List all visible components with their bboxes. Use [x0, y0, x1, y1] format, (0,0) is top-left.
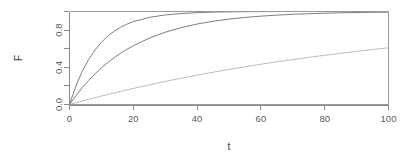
y-tick-label: 0.4 [53, 61, 64, 74]
data-curve-slow [70, 48, 389, 105]
x-tick-label: 0 [67, 113, 72, 124]
x-axis: 020406080100 [67, 105, 397, 124]
x-tick-label: 40 [192, 113, 203, 124]
x-tick-label: 60 [256, 113, 267, 124]
y-tick-label: 0.8 [53, 23, 64, 36]
x-tick-label: 20 [128, 113, 139, 124]
x-axis-title: t [228, 141, 231, 152]
y-axis: 0.00.40.8 [53, 12, 69, 112]
plot-box-outline [70, 12, 389, 105]
line-chart: 020406080100 0.00.40.8 t F [0, 0, 407, 158]
data-curve-fast [70, 12, 389, 105]
data-curves-group [70, 12, 389, 105]
plot-frame [70, 12, 389, 105]
x-tick-label: 80 [319, 113, 330, 124]
y-axis-title: F [13, 55, 24, 61]
y-tick-label: 0.0 [53, 98, 64, 111]
data-curve-medium [70, 12, 389, 104]
chart-container: 020406080100 0.00.40.8 t F [0, 0, 407, 158]
x-tick-label: 100 [381, 113, 397, 124]
